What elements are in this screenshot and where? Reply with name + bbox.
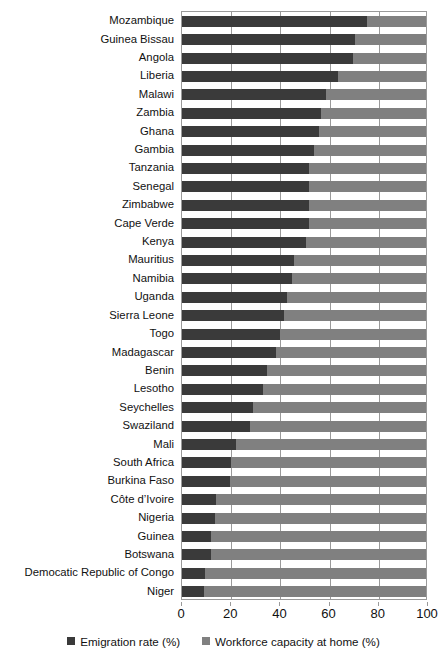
bar-segment-emigration-rate [182,200,309,211]
bar-segment-emigration-rate [182,329,280,340]
bar-segment-emigration-rate [182,568,205,579]
legend-item[interactable]: Emigration rate (%) [67,635,180,648]
category-label: Senegal [133,180,174,192]
bar-segment-workforce-at-home [306,237,426,248]
bar-segment-workforce-at-home [309,181,426,192]
bar-segment-emigration-rate [182,273,292,284]
category-label: Angola [139,51,174,63]
bar-row [182,89,426,100]
bar-segment-workforce-at-home [353,53,426,64]
bar-segment-emigration-rate [182,126,319,137]
bar-row [182,347,426,358]
bar-segment-workforce-at-home [236,439,426,450]
bar-segment-emigration-rate [182,89,326,100]
category-label: Côte d’Ivoire [111,493,174,505]
bar-segment-emigration-rate [182,421,250,432]
category-label: Uganda [134,290,174,302]
bar-segment-workforce-at-home [205,568,426,579]
bar-row [182,255,426,266]
category-label: Niger [147,585,174,597]
category-label: Sierra Leone [109,309,174,321]
bar-row [182,329,426,340]
x-tick-label: 80 [371,606,385,621]
legend-swatch-icon [202,637,210,645]
bar-row [182,310,426,321]
bar-row [182,237,426,248]
category-label: Lesotho [134,382,174,394]
x-tick-label: 40 [272,606,286,621]
category-label: Liberia [140,69,174,81]
bar-segment-workforce-at-home [280,329,426,340]
bar-row [182,34,426,45]
bar-row [182,181,426,192]
category-label: Mali [153,438,174,450]
bar-segment-workforce-at-home [216,494,426,505]
bar-segment-emigration-rate [182,255,294,266]
category-axis-labels: MozambiqueGuinea BissauAngolaLiberiaMala… [0,11,178,600]
category-label: Benin [145,364,174,376]
category-label: Madagascar [112,346,174,358]
plot-area [181,11,427,600]
bar-row [182,476,426,487]
bar-segment-workforce-at-home [294,255,426,266]
bar-row [182,531,426,542]
chart-legend: Emigration rate (%)Workforce capacity at… [0,630,447,652]
bar-row [182,145,426,156]
category-label: Tanzania [129,161,174,173]
bar-segment-emigration-rate [182,292,287,303]
bar-row [182,494,426,505]
bar-row [182,457,426,468]
bar-segment-emigration-rate [182,586,204,597]
category-label: Democatic Republic of Congo [25,566,174,578]
bar-row [182,439,426,450]
category-label: Cape Verde [114,217,174,229]
bar-segment-emigration-rate [182,402,253,413]
category-label: South Africa [113,456,174,468]
bar-segment-emigration-rate [182,237,306,248]
bar-segment-emigration-rate [182,53,353,64]
bar-segment-workforce-at-home [287,292,426,303]
category-label: Nigeria [138,511,174,523]
bar-row [182,292,426,303]
bar-segment-workforce-at-home [321,108,426,119]
bar-segment-emigration-rate [182,439,236,450]
bar-segment-workforce-at-home [338,71,426,82]
bar-segment-emigration-rate [182,365,267,376]
bar-row [182,568,426,579]
category-label: Malawi [139,88,174,100]
bar-row [182,365,426,376]
bar-row [182,384,426,395]
bar-segment-emigration-rate [182,163,309,174]
category-label: Guinea [138,530,174,542]
bar-segment-workforce-at-home [326,89,426,100]
category-label: Togo [150,327,175,339]
category-label: Swaziland [123,419,175,431]
bar-row [182,200,426,211]
bar-segment-workforce-at-home [267,365,426,376]
category-label: Seychelles [119,401,174,413]
category-label: Botswana [124,548,174,560]
x-axis: 020406080100 [0,602,447,624]
bar-segment-emigration-rate [182,218,309,229]
bar-segment-workforce-at-home [319,126,426,137]
bar-segment-emigration-rate [182,549,211,560]
category-label: Zimbabwe [122,198,174,210]
bar-row [182,402,426,413]
legend-item[interactable]: Workforce capacity at home (%) [202,635,380,648]
bar-row [182,218,426,229]
x-tick-label: 20 [223,606,237,621]
bar-segment-emigration-rate [182,310,284,321]
bar-row [182,513,426,524]
bar-segment-workforce-at-home [355,34,426,45]
bar-segment-emigration-rate [182,513,215,524]
bar-row [182,53,426,64]
bar-segment-workforce-at-home [211,531,426,542]
category-label: Zambia [136,106,174,118]
bar-row [182,163,426,174]
bar-row [182,421,426,432]
category-label: Mauritius [128,253,174,265]
bar-segment-workforce-at-home [292,273,426,284]
bar-segment-workforce-at-home [309,200,426,211]
bar-row [182,71,426,82]
bar-segment-emigration-rate [182,494,216,505]
